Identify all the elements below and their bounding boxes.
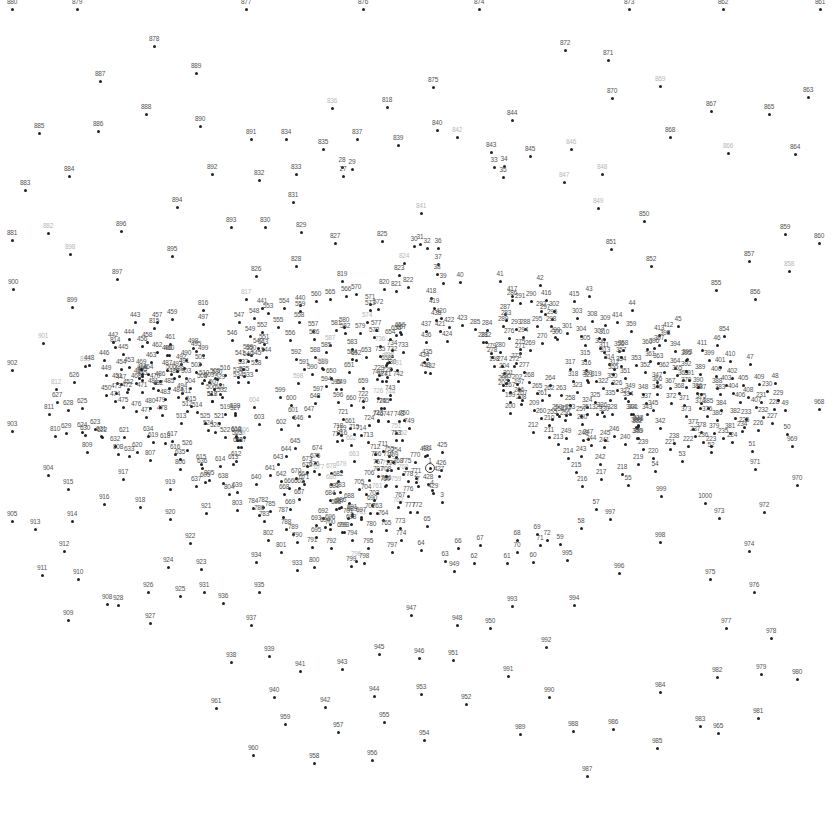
dot-number-label: 985 [647,737,667,744]
dot-icon [342,418,345,421]
dot-icon [122,478,125,481]
dot-number-label: 409 [749,373,769,380]
dot-number-label: 556 [280,329,300,336]
dot-number-label: 867 [701,100,721,107]
dot-number-label: 34 [494,155,514,162]
dot-icon [635,364,638,367]
dot-icon [77,578,80,581]
dot-icon [149,459,152,462]
dot-number-label: 841 [411,202,431,209]
dot-icon [741,430,744,433]
dot-number-label: 628 [58,399,78,406]
dot-number-label: 904 [38,464,58,471]
dot-number-label: 839 [388,134,408,141]
dot-icon [263,520,266,523]
dot-number-label: 742 [388,370,408,377]
dot-icon [688,379,691,382]
dot-number-label: 888 [136,103,156,110]
dot-number-label: 428 [418,473,438,480]
dot-icon [388,361,391,364]
dot-icon [407,480,410,483]
dot-icon [532,431,535,434]
dot-number-label: 387 [691,383,711,390]
dot-icon [257,347,260,350]
dot-icon [563,181,566,184]
dot-icon [597,207,600,210]
dot-icon [603,446,606,449]
dot-number-label: 604 [244,396,264,403]
dot-icon [715,289,718,292]
dot-number-label: 65 [417,515,437,522]
dot-icon [353,433,356,436]
dot-number-label: 684 [320,489,340,496]
dot-number-label: 501 [190,353,210,360]
dot-icon [179,458,182,461]
dot-number-label: 912 [54,540,74,547]
dot-icon [253,406,256,409]
dot-number-label: 671 [294,473,314,480]
dot-icon [757,717,760,720]
dot-icon [153,45,156,48]
dot-number-label: 651 [339,361,359,368]
dot-icon [383,721,386,724]
dot-number-label: 780 [361,520,381,527]
dot-icon [153,327,156,330]
dot-number-label: 829 [291,221,311,228]
dot-icon [601,173,604,176]
dot-number-label: 242 [590,453,610,460]
dot-number-label: 953 [411,683,431,690]
dot-number-label: 750 [394,409,414,416]
dot-icon [610,248,613,251]
dot-number-label: 998 [650,531,670,538]
dot-number-label: 948 [447,614,467,621]
dot-number-label: 276 [499,327,519,334]
dot-number-label: 996 [609,562,629,569]
dot-icon [400,333,403,336]
dot-number-label: 355 [603,363,623,370]
dot-number-label: 443 [125,311,145,318]
dot-icon [322,148,325,151]
dot-number-label: 525 [195,412,215,419]
dot-number-label: 373 [676,405,696,412]
dot-number-label: 66 [448,537,468,544]
dot-number-label: 946 [409,647,429,654]
dot-number-label: 663 [344,450,364,457]
dot-number-label: 275 [510,338,530,345]
dot-number-label: 668 [274,483,294,490]
dot-number-label: 871 [598,49,618,56]
dot-number-label: 700 [320,518,340,525]
dot-icon [549,384,552,387]
dot-number-label: 645 [285,437,305,444]
dot-icon [437,247,440,250]
dot-icon [116,278,119,281]
dot-number-label: 315 [575,349,595,356]
dot-icon [103,503,106,506]
dot-icon [621,473,624,476]
dot-number-label: 600 [281,394,301,401]
dot-number-label: 916 [94,493,114,500]
dot-number-label: 789 [283,523,303,530]
dot-number-label: 70 [507,541,527,548]
dot-number-label: 688 [339,492,359,499]
dot-icon [48,413,51,416]
dot-icon [255,369,258,372]
dot-number-label: 999 [651,485,671,492]
dot-number-label: 597 [308,385,328,392]
dot-icon [416,511,419,514]
dot-number-label: 682 [328,470,348,477]
dot-icon [221,396,224,399]
dot-icon [189,542,192,545]
dot-icon [41,574,44,577]
dot-icon [216,378,219,381]
dot-icon [453,570,456,573]
dot-icon [791,445,794,448]
dot-icon [342,175,345,178]
dot-icon [381,240,384,243]
dot-icon [245,298,248,301]
dot-icon [485,341,488,344]
dot-icon [716,419,719,422]
dot-icon [340,388,343,391]
dot-icon [370,530,373,533]
dot-icon [297,424,300,427]
dot-number-label: 632 [105,435,125,442]
